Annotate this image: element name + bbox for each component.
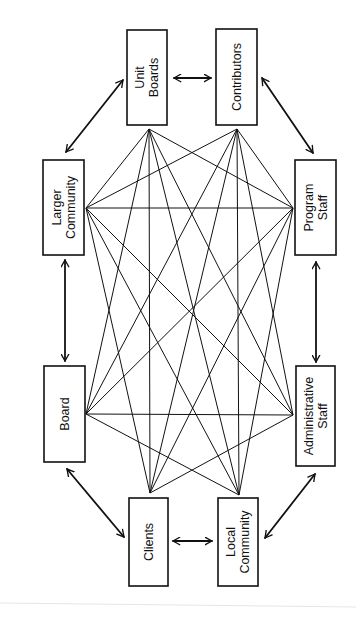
node-label: Larger (50, 189, 64, 225)
double-arrow-icon-contributors-program_staff (262, 78, 313, 153)
node-program-staff: ProgramStaff (295, 160, 336, 255)
link-contributors-larger_community (86, 129, 237, 208)
link-unit_boards-clients (149, 129, 150, 493)
link-contributors-board (86, 129, 237, 414)
node-label: Contributors (230, 43, 244, 111)
stakeholder-network-diagram: UnitBoardsContributorsLargerCommunityPro… (0, 0, 356, 620)
double-arrow-icon-board-clients (67, 469, 124, 537)
node-label: Administrative (302, 377, 316, 456)
link-unit_boards-administrative_staff (149, 129, 293, 415)
node-label: Board (58, 397, 72, 430)
link-unit_boards-larger_community (86, 129, 149, 208)
node-label: Unit (133, 66, 147, 89)
node-label: Boards (147, 58, 161, 98)
link-program_staff-clients (150, 208, 293, 493)
node-administrative-staff: AdministrativeStaff (296, 366, 335, 466)
link-unit_boards-board (86, 129, 149, 414)
node-label: Local (224, 527, 238, 557)
link-program_staff-local_community (239, 208, 293, 495)
node-label: Clients (142, 523, 156, 561)
node-larger-community: LargerCommunity (43, 160, 84, 255)
node-label: Staff (316, 403, 330, 429)
link-larger_community-clients (86, 208, 150, 493)
connection-lines (86, 129, 293, 495)
node-unit-boards: UnitBoards (127, 30, 167, 125)
link-administrative_staff-clients (150, 415, 293, 493)
link-board-administrative_staff (86, 414, 293, 415)
link-contributors-clients (150, 129, 237, 493)
double-arrow-icon-administrative_staff-local_community (265, 474, 315, 538)
node-label: Community (238, 510, 252, 574)
node-local-community: LocalCommunity (218, 498, 258, 586)
link-board-local_community (86, 414, 239, 495)
node-contributors: Contributors (216, 29, 257, 125)
scan-edge-line (0, 603, 356, 607)
link-contributors-local_community (237, 129, 239, 495)
node-board: Board (44, 366, 85, 462)
double-arrow-icon-larger_community-unit_boards (66, 80, 123, 152)
node-clients: Clients (129, 498, 168, 586)
link-contributors-administrative_staff (237, 129, 293, 415)
node-label: Community (64, 175, 78, 239)
node-label: Program (302, 184, 316, 232)
node-label: Staff (316, 194, 330, 220)
link-larger_community-local_community (86, 208, 239, 495)
link-contributors-program_staff (237, 129, 293, 208)
